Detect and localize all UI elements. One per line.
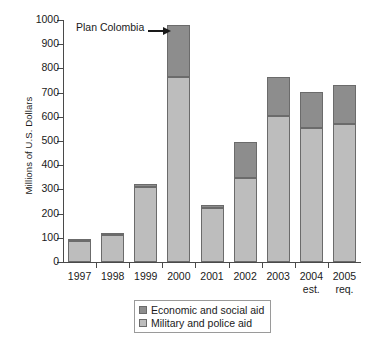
bar-segment-military-2000 (167, 77, 190, 262)
bar-2004 (300, 20, 323, 262)
bar-2003 (267, 20, 290, 262)
legend-label-military: Military and police aid (151, 317, 252, 329)
bar-segment-economic-2001 (201, 205, 224, 207)
y-axis-tick-label: 200 (41, 207, 59, 219)
legend-swatch-military-icon (139, 319, 147, 327)
bar-chart: Millions of U.S. Dollars 010020030040050… (0, 0, 377, 338)
bar-segment-military-2002 (234, 178, 257, 262)
x-axis-tick (162, 263, 163, 268)
bar-segment-economic-2002 (234, 142, 257, 178)
bar-segment-military-1998 (101, 235, 124, 262)
y-axis-tick-label: 400 (41, 158, 59, 170)
x-axis-label-2005: 2005req. (321, 270, 367, 296)
bar-segment-economic-2004 (300, 92, 323, 128)
chart-legend: Economic and social aid Military and pol… (134, 300, 271, 333)
y-axis-tick-label: 300 (41, 182, 59, 194)
legend-item-military: Military and police aid (139, 316, 264, 329)
bar-segment-military-2003 (267, 116, 290, 262)
y-axis-tick-label: 100 (41, 231, 59, 243)
y-axis-tick-label: 1000 (36, 13, 59, 25)
bar-2001 (201, 20, 224, 262)
bar-segment-economic-1997 (68, 239, 91, 241)
x-axis-tick (295, 263, 296, 268)
y-axis-tick-label: 900 (41, 37, 59, 49)
bar-1997 (68, 20, 91, 262)
annotation-plan-colombia: Plan Colombia (76, 21, 144, 33)
x-axis-line (63, 262, 361, 263)
y-axis-tick-label: 800 (41, 61, 59, 73)
bar-2002 (234, 20, 257, 262)
x-axis-sublabel-2005: req. (321, 283, 367, 296)
y-axis-tick-label: 600 (41, 110, 59, 122)
annotation-arrow-icon (148, 27, 172, 35)
x-axis-tick (96, 263, 97, 268)
bar-segment-economic-2005 (333, 85, 356, 123)
x-axis-tick (262, 263, 263, 268)
bar-segment-military-2001 (201, 208, 224, 262)
bar-segment-economic-1999 (134, 184, 157, 188)
legend-swatch-economic-icon (139, 306, 147, 314)
x-axis-tick (129, 263, 130, 268)
legend-label-economic: Economic and social aid (151, 304, 264, 316)
bar-segment-military-2005 (333, 124, 356, 262)
bar-2005 (333, 20, 356, 262)
bar-segment-economic-1998 (101, 233, 124, 235)
y-axis-line (63, 20, 64, 263)
bar-segment-military-1997 (68, 241, 91, 262)
x-axis-tick (229, 263, 230, 268)
y-axis-tick-label: 500 (41, 134, 59, 146)
bar-segment-military-2004 (300, 128, 323, 262)
y-axis-title: Millions of U.S. Dollars (23, 56, 34, 236)
bar-segment-economic-2003 (267, 77, 290, 116)
y-axis-tick-label: 0 (53, 255, 59, 267)
legend-item-economic: Economic and social aid (139, 303, 264, 316)
x-axis-tick (195, 263, 196, 268)
plot-area: 01002003004005006007008009001000 1997199… (63, 20, 361, 262)
x-axis-tick (328, 263, 329, 268)
bar-2000 (167, 20, 190, 262)
bar-segment-military-1999 (134, 187, 157, 262)
bar-1998 (101, 20, 124, 262)
y-axis-tick-label: 700 (41, 86, 59, 98)
bar-1999 (134, 20, 157, 262)
